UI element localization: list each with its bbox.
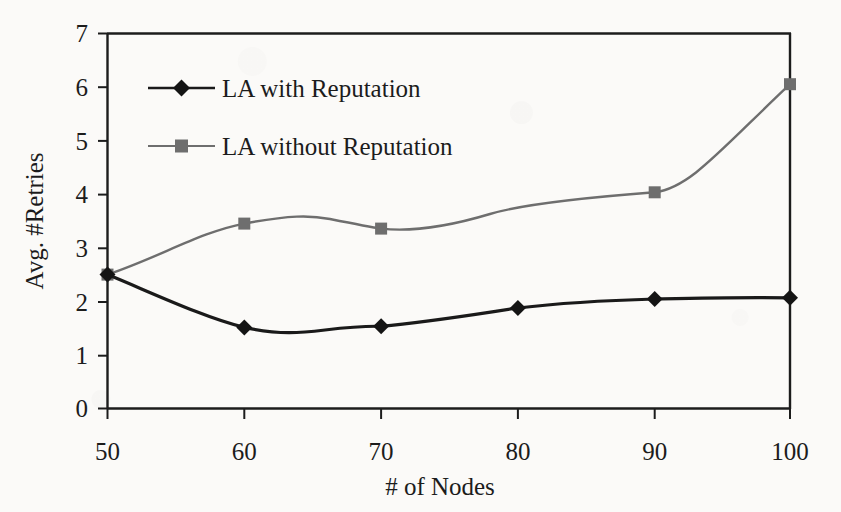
diamond-marker [782,290,798,306]
series-markers-square [102,78,797,280]
series-la-with-reputation [100,267,799,336]
y-tick-label: 7 [76,20,89,47]
square-marker [649,186,661,198]
x-tick-label: 60 [232,438,257,465]
square-marker [784,78,796,90]
legend-item-la-with-reputation: LA with Reputation [148,75,421,102]
x-tick-label: 90 [642,438,667,465]
x-tick-label: 100 [771,438,809,465]
y-tick-label: 0 [76,395,89,422]
line-chart: 7 6 5 4 3 2 1 0 50 60 70 80 90 100 # of … [0,0,841,512]
x-axis-title: # of Nodes [385,473,495,500]
x-axis-ticks [108,409,791,419]
x-tick-label: 80 [505,438,530,465]
legend-label: LA with Reputation [222,75,421,102]
plot-frame [107,33,791,409]
y-axis-title: Avg. #Retries [21,152,48,289]
legend-label: LA without Reputation [222,133,453,160]
y-axis-ticks [98,34,107,409]
x-tick-label: 50 [95,438,120,465]
y-tick-label: 3 [76,235,89,262]
y-tick-labels: 7 6 5 4 3 2 1 0 [76,20,89,422]
y-tick-label: 5 [76,128,89,155]
legend-item-la-without-reputation: LA without Reputation [148,133,453,160]
series-markers-diamond [100,267,799,336]
chart-legend: LA with Reputation LA without Reputation [148,75,453,160]
y-tick-label: 4 [76,181,89,208]
diamond-marker [236,319,252,335]
diamond-marker [373,318,389,334]
y-tick-label: 6 [76,74,89,101]
series-la-without-reputation [102,78,797,280]
y-tick-label: 1 [76,342,89,369]
diamond-marker-icon [173,80,190,97]
square-marker [375,223,387,235]
square-marker-icon [175,140,188,153]
y-tick-label: 2 [76,289,89,316]
diamond-marker [647,291,663,307]
x-tick-labels: 50 60 70 80 90 100 [95,438,809,465]
square-marker [238,218,250,230]
diamond-marker [510,300,526,316]
x-tick-label: 70 [369,438,394,465]
chart-figure: 7 6 5 4 3 2 1 0 50 60 70 80 90 100 # of … [0,0,841,512]
